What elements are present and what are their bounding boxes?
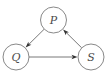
edge-line bbox=[28, 29, 44, 45]
edge-p-to-q bbox=[26, 29, 45, 47]
edge-s-to-p bbox=[63, 29, 82, 47]
node-p-label: P bbox=[49, 14, 58, 27]
cycle-diagram: P Q S bbox=[0, 0, 107, 76]
node-p: P bbox=[41, 7, 67, 33]
node-s: S bbox=[78, 44, 104, 70]
node-q: Q bbox=[3, 44, 29, 70]
nodes-layer: P Q S bbox=[3, 7, 104, 70]
edges-layer bbox=[26, 29, 82, 59]
node-s-label: S bbox=[87, 51, 95, 64]
edge-line bbox=[66, 32, 82, 48]
node-q-label: Q bbox=[11, 51, 20, 64]
edge-q-to-s bbox=[29, 55, 78, 59]
